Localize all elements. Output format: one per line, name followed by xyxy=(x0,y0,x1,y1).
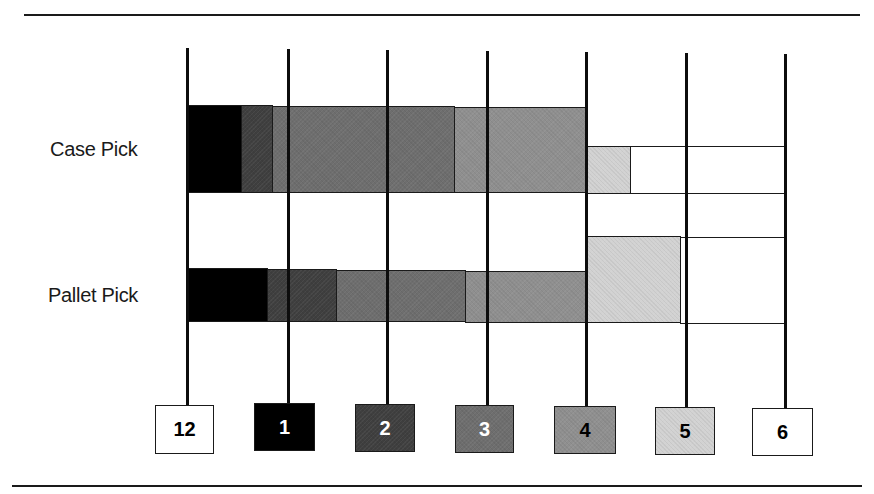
row-label-case-pick: Case Pick xyxy=(50,138,137,161)
hour-line-2 xyxy=(386,50,389,404)
hour-line-12 xyxy=(186,48,189,405)
hour-line-1 xyxy=(287,49,290,403)
legend-box-3: 3 xyxy=(455,405,514,453)
hour-line-4 xyxy=(585,52,588,407)
legend-box-1: 1 xyxy=(254,403,315,451)
case-pick-segment-6 xyxy=(630,146,786,195)
legend-box-5: 5 xyxy=(655,407,715,455)
legend-box-12: 12 xyxy=(155,405,214,454)
pallet-pick-segment-1 xyxy=(187,268,268,322)
legend-box-6: 6 xyxy=(752,408,813,456)
hour-line-3 xyxy=(486,51,489,406)
pallet-pick-segment-2 xyxy=(267,269,337,322)
case-pick-segment-5 xyxy=(586,146,631,194)
hour-line-6 xyxy=(784,54,787,409)
legend-box-4: 4 xyxy=(554,406,616,454)
pallet-pick-segment-3 xyxy=(336,270,466,322)
row-label-pallet-pick: Pallet Pick xyxy=(48,284,138,307)
case-pick-segment-3 xyxy=(272,106,455,193)
top-rule xyxy=(24,14,860,16)
case-pick-segment-4 xyxy=(454,107,587,193)
hour-line-5 xyxy=(685,53,688,408)
bottom-rule xyxy=(12,485,862,487)
case-pick-segment-2 xyxy=(241,105,273,193)
pallet-pick-segment-6 xyxy=(680,237,786,324)
case-pick-segment-1 xyxy=(187,105,243,193)
pallet-pick-segment-5 xyxy=(586,236,681,323)
pallet-pick-segment-4 xyxy=(465,271,587,323)
legend-box-2: 2 xyxy=(355,404,415,452)
